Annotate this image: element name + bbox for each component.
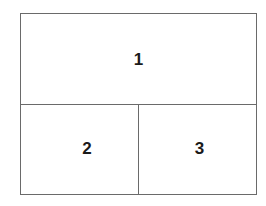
panel-label-1: 1 [134, 50, 143, 70]
panel-label-3: 3 [195, 139, 204, 159]
panel-top: 1 [21, 14, 256, 105]
panel-bottom-left: 2 [21, 105, 139, 194]
panel-layout-diagram: 1 2 3 [20, 13, 257, 195]
panel-label-2: 2 [82, 139, 91, 159]
panel-bottom-right: 3 [139, 105, 256, 194]
